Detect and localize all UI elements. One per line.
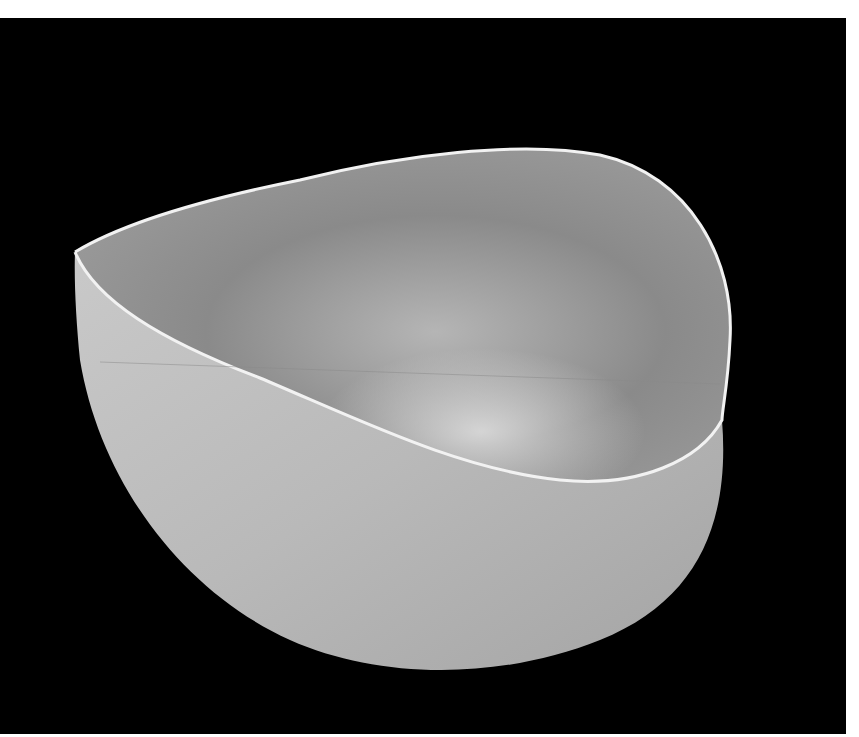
bowl-illustration (0, 0, 859, 737)
product-photo (0, 18, 846, 734)
